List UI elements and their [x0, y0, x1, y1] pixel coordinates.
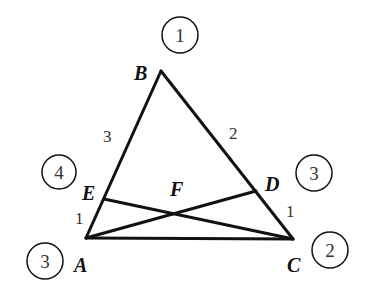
segment-label-dc: 1	[286, 202, 295, 221]
mass-point-e: 4	[42, 155, 76, 189]
vertex-label-c: C	[287, 254, 301, 276]
mass-value-d: 3	[309, 163, 319, 184]
mass-point-a: 3	[27, 243, 63, 279]
segment-ac	[86, 238, 293, 239]
mass-point-b: 1	[162, 17, 198, 53]
vertex-label-b: B	[133, 62, 147, 84]
vertex-label-d: D	[264, 173, 279, 195]
segment-ab	[86, 71, 161, 238]
mass-point-d: 3	[296, 155, 332, 191]
vertex-label-f: F	[169, 178, 184, 200]
segment-label-bd: 2	[229, 124, 238, 143]
mass-point-c: 2	[312, 232, 348, 268]
segment-label-ea: 1	[75, 209, 84, 228]
vertex-label-a: A	[72, 254, 87, 276]
mass-value-e: 4	[54, 162, 64, 183]
mass-value-c: 2	[325, 240, 335, 261]
triangle-diagram: B E F D A C 3 1 2 1 1 4 3 3 2	[0, 0, 376, 295]
mass-value-a: 3	[40, 251, 50, 272]
segment-label-be: 3	[103, 127, 112, 146]
mass-value-b: 1	[175, 25, 185, 46]
vertex-label-e: E	[81, 182, 95, 204]
